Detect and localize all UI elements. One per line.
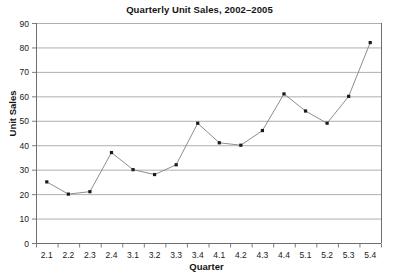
- data-point: [261, 129, 264, 132]
- x-tick-label: 3.1: [127, 250, 139, 260]
- x-tick-label: 2.3: [84, 250, 96, 260]
- x-tick-label: 4.3: [256, 250, 268, 260]
- data-point: [131, 168, 134, 171]
- data-point: [196, 122, 199, 125]
- x-tick-label: 5.3: [343, 250, 355, 260]
- y-tick-label: 70: [20, 67, 30, 77]
- series-markers: [45, 41, 372, 196]
- y-tick-label: 30: [20, 165, 30, 175]
- x-tick-label: 3.3: [170, 250, 182, 260]
- plot-area: 0102030405060708090 2.12.22.32.43.13.23.…: [0, 0, 399, 280]
- x-tick-label: 5.2: [321, 250, 333, 260]
- x-tick-label: 2.2: [62, 250, 74, 260]
- y-tick-label: 0: [24, 239, 29, 249]
- data-point: [175, 163, 178, 166]
- x-tick-label: 2.4: [106, 250, 118, 260]
- y-tick-label: 10: [20, 214, 30, 224]
- y-tick-label: 60: [20, 92, 30, 102]
- data-point: [88, 190, 91, 193]
- chart-container: Quarterly Unit Sales, 2002–2005 Unit Sal…: [0, 0, 399, 280]
- x-tick-label: 5.4: [364, 250, 376, 260]
- x-axis-ticks: 2.12.22.32.43.13.23.33.44.14.24.34.45.15…: [37, 244, 382, 260]
- data-point: [153, 173, 156, 176]
- y-tick-label: 90: [20, 19, 30, 29]
- y-tick-label: 50: [20, 116, 30, 126]
- x-tick-label: 3.2: [149, 250, 161, 260]
- data-point: [325, 122, 328, 125]
- data-point: [304, 109, 307, 112]
- data-point: [347, 95, 350, 98]
- data-point: [239, 144, 242, 147]
- data-point: [218, 141, 221, 144]
- x-tick-label: 4.4: [278, 250, 290, 260]
- series-line: [47, 43, 370, 195]
- data-point: [369, 41, 372, 44]
- y-tick-label: 20: [20, 190, 30, 200]
- data-point: [67, 193, 70, 196]
- x-tick-label: 3.4: [192, 250, 204, 260]
- data-point: [110, 151, 113, 154]
- x-tick-label: 4.2: [235, 250, 247, 260]
- data-point: [282, 92, 285, 95]
- y-tick-label: 80: [20, 43, 30, 53]
- x-tick-label: 4.1: [213, 250, 225, 260]
- y-axis-ticks: 0102030405060708090: [20, 19, 36, 249]
- x-tick-label: 2.1: [41, 250, 53, 260]
- x-tick-label: 5.1: [300, 250, 312, 260]
- y-tick-label: 40: [20, 141, 30, 151]
- data-point: [45, 180, 48, 183]
